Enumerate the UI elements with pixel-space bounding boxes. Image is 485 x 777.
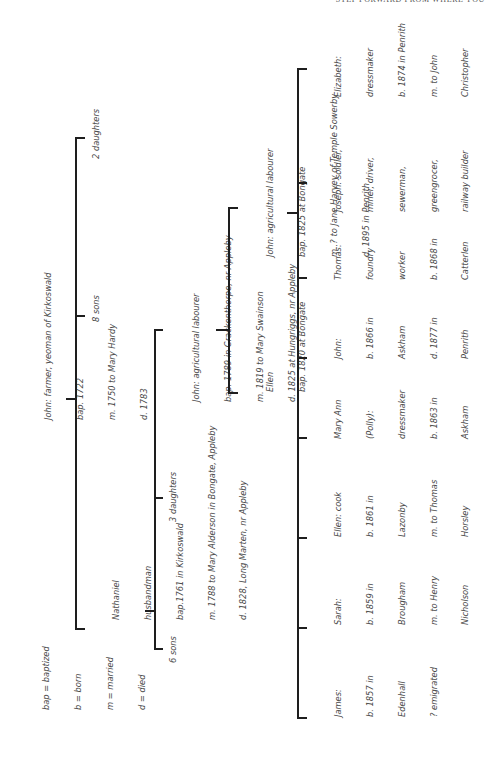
tree-bracket bbox=[75, 138, 77, 630]
person-line: John: agricultural labourer bbox=[265, 94, 276, 257]
person-line: Catterlen bbox=[460, 233, 471, 280]
person-line: b. 1874 in Penrith bbox=[397, 20, 408, 97]
person-line: m. to Thomas bbox=[429, 475, 440, 537]
person-line: Mary Ann bbox=[333, 390, 344, 439]
person-line: ? emigrated bbox=[429, 667, 440, 717]
person-line: b. 1866 in bbox=[365, 317, 376, 359]
person-nathaniel: Nathaniel husbandman bap.1761 in Kirkosw… bbox=[90, 426, 270, 620]
person-line: sewerman, bbox=[397, 124, 408, 212]
tree-connector bbox=[154, 329, 163, 331]
tree-connector bbox=[216, 329, 228, 331]
tree-connector bbox=[297, 627, 307, 629]
person-line: d. 1783 bbox=[139, 272, 150, 420]
person-joseph: Joseph: soldier, miner, driver, sewerman… bbox=[312, 124, 485, 212]
tree-connector bbox=[297, 357, 307, 359]
person-line: Christopher bbox=[460, 20, 471, 97]
tree-bracket bbox=[154, 330, 156, 650]
person-line: Ellen bbox=[265, 302, 276, 392]
person-line: m. to Henry bbox=[429, 576, 440, 625]
person-john-1866: John: b. 1866 in Askham d. 1877 in Penri… bbox=[312, 317, 485, 359]
legend-line: bap = baptized bbox=[41, 646, 52, 710]
person-line: Edenhall bbox=[397, 667, 408, 717]
person-line: Horsley bbox=[460, 475, 471, 537]
person-line: husbandman bbox=[143, 426, 154, 620]
person-line: b. 1859 in bbox=[365, 576, 376, 625]
person-line: dressmaker bbox=[365, 20, 376, 97]
tree-connector bbox=[297, 537, 307, 539]
tree-connector bbox=[154, 497, 163, 499]
label-2-daughters: 2 daughters bbox=[91, 109, 102, 159]
tree-bracket bbox=[297, 69, 299, 319]
person-line: Lazonby bbox=[397, 475, 408, 537]
tree-connector bbox=[297, 437, 307, 439]
person-line: b. 1863 in bbox=[429, 390, 440, 439]
person-line: d. 1828, Long Marten, nr Appleby bbox=[238, 426, 249, 620]
person-line: Thomas: bbox=[333, 233, 344, 280]
legend-line: b = born bbox=[73, 646, 84, 710]
person-line: railway builder bbox=[460, 124, 471, 212]
person-line: Penrith bbox=[460, 317, 471, 359]
person-line: worker bbox=[397, 233, 408, 280]
person-line: Joseph: soldier, bbox=[333, 124, 344, 212]
tree-connector bbox=[297, 68, 307, 70]
tree-connector bbox=[145, 610, 154, 612]
person-line: Nathaniel bbox=[111, 426, 122, 620]
legend-line: m = married bbox=[105, 646, 116, 710]
person-line: b. 1857 in bbox=[365, 667, 376, 717]
person-line: greengrocer, bbox=[429, 124, 440, 212]
person-sarah: Sarah: b. 1859 in Brougham m. to Henry N… bbox=[312, 576, 485, 625]
person-thomas: Thomas: foundry worker b. 1868 in Catter… bbox=[312, 233, 485, 280]
label-6-sons: 6 sons bbox=[168, 636, 179, 663]
family-tree: bap = baptized b = born m = married d = … bbox=[0, 0, 485, 777]
person-line: Elizabeth: bbox=[333, 20, 344, 97]
tree-connector bbox=[228, 207, 238, 209]
person-line: John: farmer, yeoman of Kirkoswald bbox=[43, 272, 54, 420]
legend: bap = baptized b = born m = married d = … bbox=[20, 646, 168, 710]
person-james: James: b. 1857 in Edenhall ? emigrated bbox=[312, 667, 460, 717]
person-line: foundry bbox=[365, 233, 376, 280]
label-3-daughters: 3 daughters bbox=[168, 472, 179, 522]
tree-bracket bbox=[228, 208, 230, 394]
person-line: miner, driver, bbox=[365, 124, 376, 212]
tree-connector bbox=[297, 182, 307, 184]
person-line: Askham bbox=[460, 390, 471, 439]
person-line: Ellen: cook bbox=[333, 475, 344, 537]
person-mary-ann: Mary Ann (Polly): dressmaker b. 1863 in … bbox=[312, 390, 485, 439]
label-8-sons: 8 sons bbox=[91, 295, 102, 322]
person-line: d. 1877 in bbox=[429, 317, 440, 359]
person-line: bap.1761 in Kirkoswald bbox=[175, 426, 186, 620]
tree-connector bbox=[154, 648, 163, 650]
tree-connector bbox=[297, 277, 307, 279]
tree-connector bbox=[297, 717, 307, 719]
person-line: Askham bbox=[397, 317, 408, 359]
person-line: James: bbox=[333, 667, 344, 717]
tree-connector bbox=[228, 392, 238, 394]
person-line: Sarah: bbox=[333, 576, 344, 625]
tree-connector bbox=[75, 628, 85, 630]
person-line: m. 1750 to Mary Hardy bbox=[107, 272, 118, 420]
person-line: Nicholson bbox=[460, 576, 471, 625]
person-line: dressmaker bbox=[397, 390, 408, 439]
tree-connector bbox=[75, 137, 85, 139]
person-line: Brougham bbox=[397, 576, 408, 625]
person-line: John: bbox=[333, 317, 344, 359]
person-ellen-1861: Ellen: cook b. 1861 in Lazonby m. to Tho… bbox=[312, 475, 485, 537]
person-line: (Polly): bbox=[365, 390, 376, 439]
person-line: m. to John bbox=[429, 20, 440, 97]
tree-bracket bbox=[297, 317, 299, 719]
person-elizabeth: Elizabeth: dressmaker b. 1874 in Penrith… bbox=[312, 20, 485, 97]
person-line: b. 1861 in bbox=[365, 475, 376, 537]
tree-connector bbox=[75, 315, 85, 317]
person-line: m. 1788 to Mary Alderson in Bongate, App… bbox=[207, 426, 218, 620]
legend-line: d = died bbox=[137, 646, 148, 710]
person-line: John: agricultural labourer bbox=[191, 235, 202, 402]
person-line: b. 1868 in bbox=[429, 233, 440, 280]
